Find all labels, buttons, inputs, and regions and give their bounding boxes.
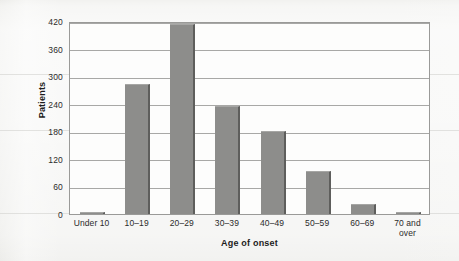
x-tick-line: 50–59: [295, 219, 340, 229]
chart-screenshot: Patients 060120180240300360420 Under 101…: [0, 0, 459, 261]
bar: [125, 84, 150, 214]
y-tick-360: 360: [29, 45, 63, 55]
gridline-60: [70, 188, 429, 189]
plot-area: [69, 22, 430, 215]
bar: [80, 212, 105, 214]
x-axis-label: Age of onset: [69, 238, 430, 248]
gridline-420: [70, 23, 429, 24]
x-tick-4: 40–49: [250, 219, 295, 229]
x-tick-5: 50–59: [295, 219, 340, 229]
bar: [261, 131, 286, 214]
y-tick-300: 300: [29, 72, 63, 82]
y-tick-0: 0: [29, 210, 63, 220]
bar: [351, 204, 376, 214]
x-tick-0: Under 10: [69, 219, 114, 229]
x-tick-6: 60–69: [340, 219, 385, 229]
y-tick-420: 420: [29, 17, 63, 27]
y-tick-240: 240: [29, 100, 63, 110]
x-tick-line: 40–49: [250, 219, 295, 229]
bar: [215, 106, 240, 214]
x-tick-line: over: [385, 229, 430, 239]
gridline-300: [70, 78, 429, 79]
bar: [170, 24, 195, 214]
x-tick-line: 60–69: [340, 219, 385, 229]
gridline-240: [70, 105, 429, 106]
y-tick-180: 180: [29, 127, 63, 137]
gridline-360: [70, 50, 429, 51]
x-tick-line: Under 10: [69, 219, 114, 229]
y-tick-120: 120: [29, 155, 63, 165]
bar: [396, 212, 421, 214]
y-tick-60: 60: [29, 182, 63, 192]
x-tick-line: 10–19: [114, 219, 159, 229]
gridline-120: [70, 160, 429, 161]
x-tick-line: 20–29: [159, 219, 204, 229]
x-tick-1: 10–19: [114, 219, 159, 229]
bar: [306, 171, 331, 214]
gridline-180: [70, 133, 429, 134]
x-tick-2: 20–29: [159, 219, 204, 229]
x-tick-7: 70 andover: [385, 219, 430, 238]
x-tick-3: 30–39: [204, 219, 249, 229]
x-tick-line: 30–39: [204, 219, 249, 229]
